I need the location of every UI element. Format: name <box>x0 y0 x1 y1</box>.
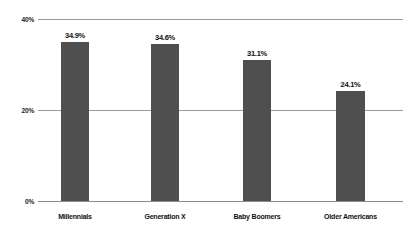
category-label-baby-boomers: Baby Boomers <box>233 213 280 220</box>
bars-layer: 34.9% Millennials 34.6% Generation X 31.… <box>38 19 403 201</box>
bar-value-generation-x: 34.6% <box>155 33 175 42</box>
category-label-millennials: Millennials <box>58 213 92 220</box>
bar-group-older-americans[interactable]: 24.1% Older Americans <box>336 19 365 201</box>
ytick-label-0: 0% <box>25 198 34 205</box>
bar-baby-boomers[interactable] <box>243 60 271 202</box>
bar-group-baby-boomers[interactable]: 31.1% Baby Boomers <box>243 19 271 201</box>
bar-group-millennials[interactable]: 34.9% Millennials <box>61 19 89 201</box>
bar-millennials[interactable] <box>61 42 89 201</box>
bar-older-americans[interactable] <box>336 91 365 201</box>
bar-value-baby-boomers: 31.1% <box>247 49 267 58</box>
gridline-0: 0% <box>38 201 403 202</box>
category-label-generation-x: Generation X <box>144 213 185 220</box>
plot-area: 40% 20% 0% 34.9% Millennials 34.6% Gener… <box>38 19 403 201</box>
ytick-label-40: 40% <box>22 16 34 23</box>
bar-value-older-americans: 24.1% <box>341 80 361 89</box>
bar-group-generation-x[interactable]: 34.6% Generation X <box>151 19 179 201</box>
bar-value-millennials: 34.9% <box>65 31 85 40</box>
bar-generation-x[interactable] <box>151 44 179 201</box>
ytick-label-20: 20% <box>22 107 34 114</box>
category-label-older-americans: Older Americans <box>324 213 377 220</box>
bar-chart: 40% 20% 0% 34.9% Millennials 34.6% Gener… <box>0 0 420 241</box>
